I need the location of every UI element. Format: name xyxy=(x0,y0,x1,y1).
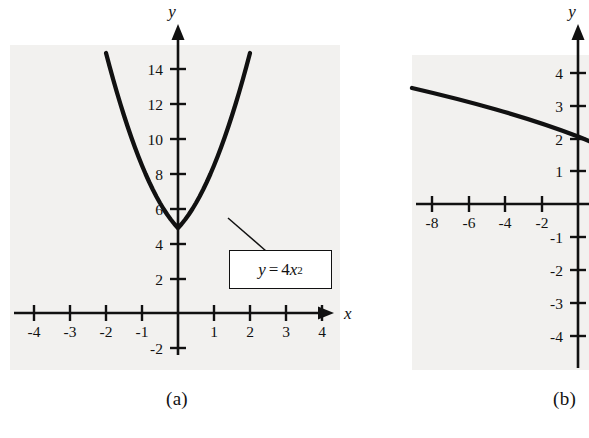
panel-b-ytick-label: -1 xyxy=(550,229,563,246)
panel-b-xtick-label: -2 xyxy=(536,214,549,231)
panel-b-ytick-label: 1 xyxy=(555,163,563,180)
panel-b-ytick-label: -4 xyxy=(550,328,563,345)
panel-b-ytick-label: -2 xyxy=(550,262,563,279)
panel-b-y-axis-label: y xyxy=(566,2,576,21)
panel-b-xtick-label: -6 xyxy=(463,214,476,231)
panel-b-ytick-label: -3 xyxy=(550,295,563,312)
figure-canvas: -4 -3 -2 -1 1 2 3 4 14 12 10 8 6 4 2 -2 … xyxy=(0,0,589,438)
panel-b-plot: -8 -6 -4 -2 4 3 2 1 -1 -2 -3 -4 y xyxy=(0,0,589,438)
panel-b-xtick-label: -8 xyxy=(426,214,439,231)
panel-b-caption: (b) xyxy=(553,388,576,410)
panel-b-xtick-label: -4 xyxy=(499,214,512,231)
panel-b-y-axis xyxy=(572,24,585,368)
panel-b-ytick-label: 3 xyxy=(555,98,563,115)
panel-b-ytick-label: 2 xyxy=(555,131,563,148)
panel-b-ytick-label: 4 xyxy=(555,65,563,82)
